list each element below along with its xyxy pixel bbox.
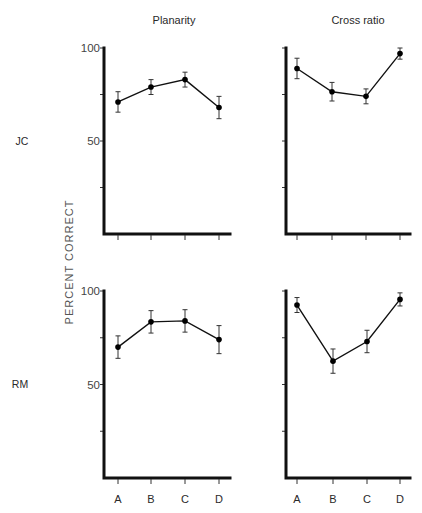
x-category-label: C — [181, 493, 189, 505]
data-point-marker — [182, 77, 188, 83]
data-point-marker — [364, 339, 370, 345]
data-line — [118, 80, 219, 108]
x-category-label: B — [329, 493, 336, 505]
y-tick-label: 50 — [87, 379, 100, 391]
column-title-cross-ratio: Cross ratio — [331, 14, 384, 26]
data-point-marker — [397, 297, 403, 303]
data-point-marker — [115, 99, 121, 105]
panel-rm-cross-ratio: ABCD — [282, 291, 410, 505]
data-point-marker — [148, 84, 154, 90]
data-point-marker — [329, 89, 335, 95]
figure: Planarity Cross ratio JC RM PERCENT CORR… — [0, 0, 422, 513]
x-category-label: D — [215, 493, 223, 505]
panel-rm-planarity: 50100ABCD — [81, 285, 230, 505]
data-line — [118, 321, 219, 347]
axes — [286, 291, 410, 478]
panel-jc-planarity: 50100 — [81, 42, 230, 240]
axes — [104, 291, 230, 478]
data-line — [297, 299, 400, 361]
data-point-marker — [216, 105, 222, 111]
data-point-marker — [148, 319, 154, 325]
x-category-label: C — [363, 493, 371, 505]
data-point-marker — [397, 51, 403, 57]
data-point-marker — [182, 318, 188, 324]
data-line — [297, 54, 400, 97]
data-point-marker — [216, 337, 222, 343]
y-tick-label: 50 — [87, 135, 100, 147]
y-axis-label: PERCENT CORRECT — [63, 200, 75, 325]
panel-jc-cross-ratio — [282, 48, 410, 240]
axes — [286, 48, 410, 234]
data-point-marker — [330, 358, 336, 364]
column-title-planarity: Planarity — [153, 14, 196, 26]
row-label-rm: RM — [12, 378, 28, 390]
data-point-marker — [294, 66, 300, 72]
data-point-marker — [294, 302, 300, 308]
data-point-marker — [115, 344, 121, 350]
y-tick-label: 100 — [81, 285, 100, 297]
x-category-label: D — [396, 493, 404, 505]
x-category-label: B — [147, 493, 154, 505]
x-category-label: A — [293, 493, 301, 505]
data-point-marker — [363, 94, 369, 100]
x-category-label: A — [114, 493, 122, 505]
row-label-jc: JC — [16, 135, 29, 147]
y-tick-label: 100 — [81, 42, 100, 54]
axes — [104, 48, 230, 234]
